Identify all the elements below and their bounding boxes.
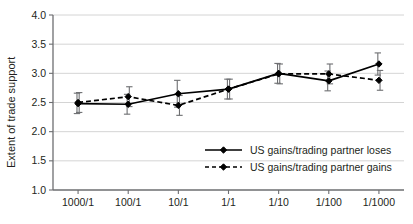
- legend-marker-1: [220, 164, 226, 170]
- y-tick-label: 3.0: [31, 67, 46, 79]
- y-tick-label: 2.5: [31, 96, 46, 108]
- data-point: [376, 61, 382, 67]
- y-axis-ticks: 1.01.52.02.53.03.54.0: [31, 9, 53, 196]
- line-chart: 1.01.52.02.53.03.54.0 1000/1100/110/11/1…: [0, 0, 413, 224]
- legend: US gains/trading partner losesUS gains/t…: [205, 144, 392, 173]
- x-tick-label: 1/1000: [363, 196, 395, 208]
- y-tick-label: 4.0: [31, 9, 46, 21]
- x-tick-label: 1/100: [316, 196, 342, 208]
- y-tick-label: 3.5: [31, 38, 46, 50]
- y-axis-label-text: Extent of trade support: [5, 57, 17, 168]
- y-tick-label: 1.0: [31, 184, 46, 196]
- legend-marker-0: [220, 147, 226, 153]
- x-tick-label: 1/10: [268, 196, 289, 208]
- series-line-0: [78, 64, 379, 104]
- chart-container: 1.01.52.02.53.03.54.0 1000/1100/110/11/1…: [0, 0, 413, 224]
- y-tick-label: 1.5: [31, 154, 46, 166]
- data-point: [225, 86, 231, 92]
- x-tick-label: 10/1: [168, 196, 189, 208]
- y-axis-label: Extent of trade support: [5, 57, 17, 168]
- data-point: [376, 77, 382, 83]
- x-tick-label: 1/1: [221, 196, 236, 208]
- legend-label-1: US gains/trading partner gains: [250, 161, 392, 173]
- data-point: [326, 71, 332, 77]
- x-tick-label: 100/1: [115, 196, 141, 208]
- legend-label-0: US gains/trading partner loses: [250, 144, 391, 156]
- data-point: [326, 78, 332, 84]
- data-point-markers: [75, 61, 382, 109]
- y-tick-label: 2.0: [31, 125, 46, 137]
- error-bars: [74, 53, 383, 115]
- x-axis-ticks: 1000/1100/110/11/11/101/1001/1000: [62, 190, 395, 208]
- x-tick-label: 1000/1: [62, 196, 94, 208]
